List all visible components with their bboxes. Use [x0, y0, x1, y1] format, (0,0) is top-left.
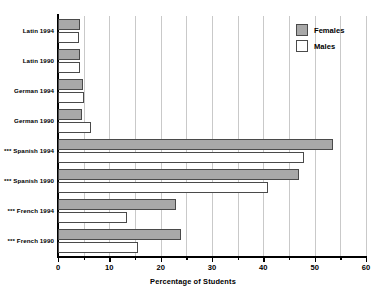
gridline: [366, 16, 367, 256]
bar-chart: Latin 1994Latin 1990German 1994German 19…: [0, 0, 386, 304]
bar-females: [58, 49, 80, 60]
bar-females: [58, 79, 83, 90]
x-axis-title: Percentage of Students: [0, 277, 386, 286]
x-tick-major: [212, 257, 213, 262]
x-tick-minor: [289, 257, 290, 260]
category-label: *** Spanish 1990: [0, 177, 54, 185]
bar-group: *** Spanish 1994: [58, 136, 366, 166]
x-tick-minor: [238, 257, 239, 260]
x-tick-label: 40: [250, 263, 276, 272]
bar-females: [58, 169, 299, 180]
x-tick-label: 0: [45, 263, 71, 272]
bar-males: [58, 242, 138, 253]
bar-males: [58, 152, 304, 163]
x-tick-major: [315, 257, 316, 262]
x-tick-label: 50: [302, 263, 328, 272]
bar-males: [58, 92, 84, 103]
bar-males: [58, 32, 79, 43]
x-tick-major: [58, 257, 59, 262]
bar-females: [58, 199, 176, 210]
bar-group: German 1990: [58, 106, 366, 136]
legend-item-females: Females: [296, 22, 344, 38]
bar-males: [58, 212, 127, 223]
x-tick-label: 30: [199, 263, 225, 272]
category-label: Latin 1990: [0, 57, 54, 65]
category-label: *** Spanish 1994: [0, 147, 54, 155]
legend-item-males: Males: [296, 38, 344, 54]
bar-group: *** French 1994: [58, 196, 366, 226]
bar-males: [58, 62, 80, 73]
legend-label-females: Females: [314, 26, 344, 35]
bar-females: [58, 19, 80, 30]
x-tick-label: 60: [353, 263, 379, 272]
category-label: *** French 1990: [0, 237, 54, 245]
bar-females: [58, 109, 82, 120]
bar-group: *** French 1990: [58, 226, 366, 256]
legend-label-males: Males: [314, 42, 335, 51]
category-label: Latin 1994: [0, 27, 54, 35]
x-tick-label: 10: [96, 263, 122, 272]
x-tick-minor: [340, 257, 341, 260]
bar-males: [58, 122, 91, 133]
legend-swatch-females-icon: [296, 24, 308, 36]
bar-females: [58, 139, 333, 150]
category-label: German 1990: [0, 117, 54, 125]
category-label: German 1994: [0, 87, 54, 95]
x-tick-label: 20: [148, 263, 174, 272]
bar-males: [58, 182, 268, 193]
x-tick-major: [263, 257, 264, 262]
x-tick-minor: [84, 257, 85, 260]
x-tick-major: [161, 257, 162, 262]
x-tick-major: [109, 257, 110, 262]
bar-group: German 1994: [58, 76, 366, 106]
bar-females: [58, 229, 181, 240]
x-tick-minor: [186, 257, 187, 260]
chart-legend: Females Males: [296, 22, 344, 54]
legend-swatch-males-icon: [296, 40, 308, 52]
category-label: *** French 1994: [0, 207, 54, 215]
x-tick-major: [366, 257, 367, 262]
bar-group: *** Spanish 1990: [58, 166, 366, 196]
x-tick-minor: [135, 257, 136, 260]
